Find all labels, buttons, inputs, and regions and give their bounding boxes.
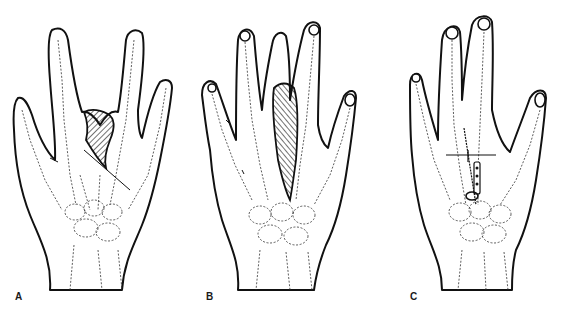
panel-a: A [0,0,190,310]
hand-illustration-b [190,0,380,310]
hand-illustration-a [0,0,190,310]
panel-b: B [190,0,380,310]
panel-label-c: C [410,291,417,302]
panel-label-b: B [206,291,213,302]
hand-illustration-c [380,0,568,310]
panel-label-a: A [15,291,22,302]
panel-c: C [380,0,568,310]
